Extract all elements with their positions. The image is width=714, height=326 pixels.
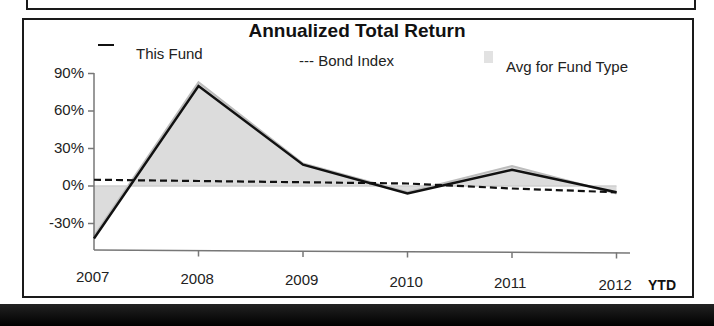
x-tick-label: 2007 xyxy=(76,268,109,285)
y-tick-label: 30% xyxy=(54,139,84,156)
y-tick-label: 90% xyxy=(54,64,84,81)
x-tick-label: 2008 xyxy=(181,270,214,287)
x-axis-line xyxy=(94,250,630,253)
bottom-shadow-band xyxy=(0,304,714,326)
x-tick-label: 2011 xyxy=(494,274,526,291)
x-tick-label: 2010 xyxy=(390,273,423,290)
y-tick-label: 0% xyxy=(62,176,84,193)
y-tick-label: 60% xyxy=(54,101,84,118)
avg-fund-type-area xyxy=(94,82,617,236)
x-tick-label: 2012 xyxy=(599,276,632,293)
y-tick-label: -30% xyxy=(49,214,84,231)
ytd-label: YTD xyxy=(648,277,676,293)
x-tick-label: 2009 xyxy=(285,271,318,288)
